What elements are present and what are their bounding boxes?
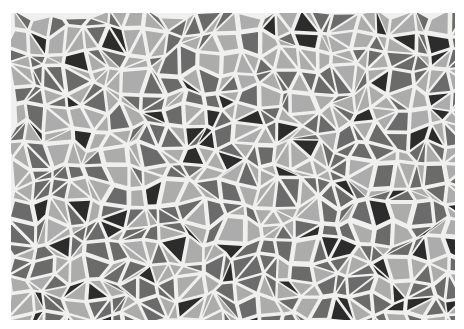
mosaic-image <box>11 13 455 320</box>
mosaic-tiles <box>11 13 455 320</box>
